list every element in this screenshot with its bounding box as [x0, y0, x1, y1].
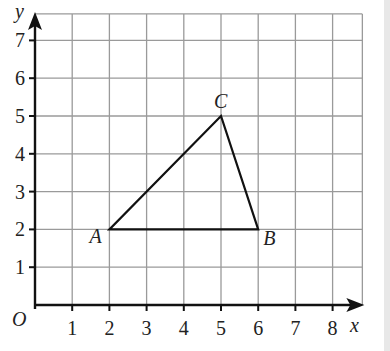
y-tick-label: 7 [15, 29, 25, 51]
x-tick-label: 4 [179, 317, 189, 339]
y-tick-label: 5 [15, 105, 25, 127]
y-tick-label: 6 [15, 67, 25, 89]
y-axis-label: y [13, 0, 24, 23]
vertex-label-a: A [87, 225, 102, 247]
coordinate-diagram: 123456781234567 ABC x y O [0, 0, 390, 351]
y-tick-label: 4 [15, 143, 25, 165]
vertex-label-c: C [214, 90, 228, 112]
x-tick-label: 8 [328, 317, 338, 339]
page-edge [384, 0, 390, 351]
x-tick-label: 3 [142, 317, 152, 339]
x-tick-label: 2 [104, 317, 114, 339]
x-axis-label: x [349, 314, 359, 336]
x-tick-label: 1 [67, 317, 77, 339]
y-tick-label: 2 [15, 218, 25, 240]
origin-label: O [12, 308, 26, 330]
x-tick-label: 5 [216, 317, 226, 339]
y-tick-label: 3 [15, 181, 25, 203]
vertex-label-b: B [263, 227, 275, 249]
x-tick-label: 7 [290, 317, 300, 339]
tick-labels: 123456781234567 [15, 29, 338, 339]
vertex-labels: ABC [87, 90, 275, 249]
x-tick-label: 6 [253, 317, 263, 339]
grid-lines [35, 14, 362, 305]
y-tick-label: 1 [15, 256, 25, 278]
